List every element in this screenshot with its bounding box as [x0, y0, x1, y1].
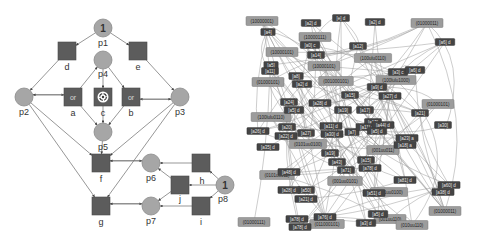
action-node[interactable]: [a2] d: [365, 19, 385, 26]
action-node[interactable]: [a11]: [262, 68, 279, 75]
arc-p1-e: [111, 33, 129, 45]
state-node[interactable]: (01000111): [238, 218, 270, 227]
action-node[interactable]: [a11] d: [320, 123, 342, 130]
place-p3[interactable]: p3: [171, 88, 189, 117]
state-node[interactable]: (10000101): [266, 48, 298, 57]
action-node[interactable]: [a5] d: [368, 211, 388, 218]
state-node[interactable]: (10000101): [308, 62, 340, 71]
action-node[interactable]: [a9] d: [367, 84, 387, 91]
transition-d[interactable]: d: [58, 42, 76, 72]
action-node[interactable]: [a6] d: [405, 67, 425, 74]
action-node[interactable]: [a27] d: [379, 93, 401, 100]
action-label: [a50]: [301, 188, 311, 193]
action-node[interactable]: [a28] d: [309, 100, 331, 107]
action-node[interactable]: [a18] a: [394, 142, 416, 149]
state-node[interactable]: (01000101): [422, 100, 454, 109]
place-p1[interactable]: 1p1: [94, 19, 112, 48]
state-node[interactable]: (001000101): [319, 77, 354, 86]
action-node[interactable]: [a78] d: [359, 165, 381, 172]
action-node[interactable]: [a15]: [342, 92, 359, 99]
action-node[interactable]: [a28] d: [278, 187, 300, 194]
place-p7[interactable]: p7: [142, 197, 160, 226]
action-node[interactable]: [a20]: [279, 124, 296, 131]
action-node[interactable]: [a2] d: [292, 81, 312, 88]
action-node[interactable]: [a3] d: [356, 220, 376, 227]
action-node[interactable]: [a71]: [338, 167, 355, 174]
action-label: [a2] d: [296, 82, 308, 87]
state-node[interactable]: (01000101): [252, 78, 284, 87]
action-node[interactable]: [a21] d: [295, 196, 317, 203]
transition-f[interactable]: f: [92, 154, 110, 184]
action-node[interactable]: [a15]: [358, 157, 375, 164]
action-node[interactable]: [a12]: [350, 43, 367, 50]
action-node[interactable]: [a2] d: [301, 20, 321, 27]
place-label: p2: [19, 107, 29, 117]
state-node[interactable]: (001uu0101): [328, 177, 363, 186]
action-node[interactable]: [a35] d: [257, 144, 279, 151]
transition-h[interactable]: h: [192, 154, 210, 186]
transition-a[interactable]: ora: [64, 88, 82, 118]
action-node[interactable]: [a51] d: [363, 190, 385, 197]
transition-box: [171, 176, 189, 194]
action-node[interactable]: [a38] d: [432, 189, 454, 196]
action-node[interactable]: [a19]: [335, 107, 352, 114]
transition-label: c: [101, 108, 106, 118]
action-node[interactable]: [a19]: [322, 150, 339, 157]
action-node[interactable]: [a76] d: [314, 214, 336, 221]
action-label: [a17]: [360, 108, 370, 113]
action-node[interactable]: [a8]: [289, 73, 303, 80]
action-node[interactable]: [a22] d: [275, 133, 297, 140]
state-node[interactable]: (0101uu0100): [289, 140, 326, 149]
arc-p4-b: [108, 67, 124, 88]
action-node[interactable]: [a30]: [435, 122, 452, 129]
state-node[interactable]: (01000011): [429, 207, 461, 216]
state-label: (10000101): [312, 64, 336, 69]
place-p8[interactable]: 1p8: [216, 176, 234, 204]
state-node[interactable]: (01000011): [411, 19, 443, 28]
state-node[interactable]: (10000001): [246, 17, 278, 26]
state-node[interactable]: (100lulu0110): [251, 113, 291, 122]
action-node[interactable]: [a30] d: [321, 131, 343, 138]
place-label: p8: [218, 194, 228, 204]
action-node[interactable]: [a3] c: [388, 69, 408, 76]
state-node[interactable]: (010uu110): [396, 221, 428, 230]
action-label: [a15]: [361, 158, 371, 163]
action-label: [a27]: [301, 131, 311, 136]
transition-e[interactable]: e: [129, 42, 147, 72]
transition-c[interactable]: c: [94, 88, 112, 118]
state-edge: [316, 23, 427, 55]
transition-b[interactable]: orb: [122, 88, 140, 118]
transition-j[interactable]: j: [171, 176, 189, 204]
place-p2[interactable]: p2: [15, 88, 33, 117]
action-node[interactable]: [a14]: [308, 52, 325, 59]
action-node[interactable]: [a81] d: [394, 177, 416, 184]
action-node[interactable]: [a60] d: [438, 182, 460, 189]
action-node[interactable]: [a26] d: [247, 128, 269, 135]
state-node[interactable]: (011000101): [310, 220, 345, 229]
transition-g[interactable]: g: [92, 197, 110, 227]
action-node[interactable]: [a0] c: [300, 42, 320, 49]
action-node[interactable]: [a24]: [281, 99, 298, 106]
transition-i[interactable]: i: [192, 197, 210, 227]
place-p5[interactable]: p5: [94, 123, 112, 152]
transition-label: j: [178, 194, 181, 204]
action-node[interactable]: [a23] a: [396, 135, 418, 142]
action-node[interactable]: [a78] d: [286, 216, 308, 223]
state-node[interactable]: (100lulu1000): [376, 76, 416, 85]
action-label: [a71]: [341, 168, 351, 173]
action-node[interactable]: [a17]: [357, 107, 374, 114]
action-node[interactable]: [a48] d: [278, 169, 300, 176]
action-node[interactable]: [a78] d: [289, 224, 311, 231]
state-node[interactable]: (100ulu0110): [354, 54, 391, 63]
state-node[interactable]: (10000111): [299, 33, 331, 42]
action-node[interactable]: [a4]: [261, 29, 275, 36]
action-node[interactable]: [a5] d: [367, 128, 387, 135]
place-p6[interactable]: p6: [142, 154, 160, 183]
action-node[interactable]: [a6] d: [435, 39, 455, 46]
action-node[interactable]: [e] d: [333, 15, 350, 22]
action-node[interactable]: [a5] d: [284, 107, 304, 114]
action-node[interactable]: [a21]: [412, 110, 429, 117]
place-p4[interactable]: p4: [94, 51, 112, 79]
action-node[interactable]: [a43]: [329, 159, 346, 166]
action-node[interactable]: [a27]: [298, 130, 315, 137]
